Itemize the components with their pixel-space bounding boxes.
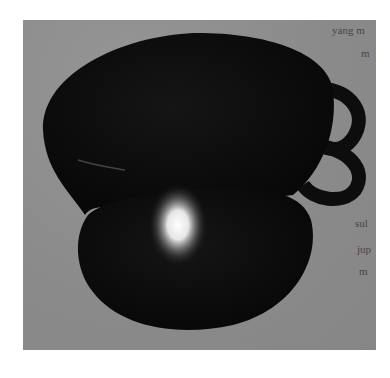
bleed-text-1: yang m <box>332 25 365 36</box>
gourd-vessel-illustration <box>23 20 376 350</box>
vessel-photo: yang m m sul jup m <box>23 20 376 350</box>
bleed-text-3: sul <box>355 218 368 229</box>
specular-highlight <box>148 183 208 267</box>
bleed-text-4: jup <box>357 244 371 255</box>
bleed-text-5: m <box>359 266 368 277</box>
bleed-text-2: m <box>361 48 370 59</box>
